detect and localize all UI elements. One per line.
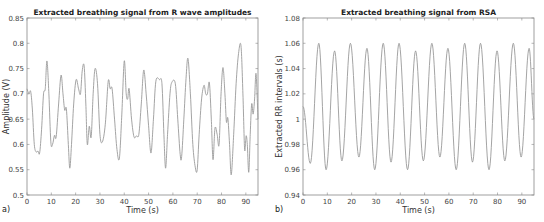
x-tick-label: 70 bbox=[469, 198, 478, 206]
y-tick-label: 0.6 bbox=[13, 141, 25, 149]
chart-panel-1: 01020304050607080900.940.960.9811.021.04… bbox=[275, 8, 534, 215]
y-tick-label: 0.94 bbox=[284, 192, 300, 200]
x-tick-label: 40 bbox=[396, 198, 405, 206]
panel-label: b) bbox=[275, 205, 283, 214]
chart-title: Extracted breathing signal from R wave a… bbox=[33, 8, 252, 17]
plot-area-frame bbox=[303, 18, 534, 195]
x-tick-label: 30 bbox=[95, 198, 104, 206]
x-axis-label: Time (s) bbox=[401, 206, 435, 215]
x-tick-label: 10 bbox=[47, 198, 56, 206]
x-tick-label: 0 bbox=[25, 198, 29, 206]
y-tick-label: 1.04 bbox=[284, 65, 300, 73]
plot-area-frame bbox=[27, 18, 258, 195]
x-tick-label: 90 bbox=[517, 198, 526, 206]
x-tick-label: 30 bbox=[371, 198, 380, 206]
y-tick-label: 0.5 bbox=[13, 192, 24, 200]
y-tick-label: 1.06 bbox=[284, 40, 300, 48]
y-tick-label: 1.02 bbox=[284, 90, 300, 98]
y-tick-label: 0.75 bbox=[8, 65, 24, 73]
y-tick-label: 1 bbox=[296, 116, 300, 124]
y-tick-label: 1.08 bbox=[284, 15, 300, 23]
y-tick-label: 0.8 bbox=[13, 40, 24, 48]
y-tick-label: 0.55 bbox=[8, 166, 24, 174]
figure: 01020304050607080900.50.550.60.650.70.75… bbox=[0, 0, 544, 222]
x-tick-label: 20 bbox=[347, 198, 356, 206]
x-tick-label: 60 bbox=[168, 198, 177, 206]
data-line-series-0 bbox=[27, 43, 258, 175]
y-tick-label: 0.96 bbox=[284, 166, 300, 174]
x-tick-label: 10 bbox=[323, 198, 332, 206]
x-tick-label: 90 bbox=[241, 198, 250, 206]
x-tick-label: 80 bbox=[217, 198, 226, 206]
x-tick-label: 50 bbox=[144, 198, 153, 206]
x-tick-label: 0 bbox=[301, 198, 305, 206]
x-tick-label: 80 bbox=[493, 198, 502, 206]
x-axis-label: Time (s) bbox=[125, 206, 159, 215]
panel-label: a) bbox=[2, 205, 10, 214]
data-line-series-0 bbox=[303, 43, 534, 169]
chart-panel-0: 01020304050607080900.50.550.60.650.70.75… bbox=[2, 8, 258, 215]
y-tick-label: 0.85 bbox=[8, 15, 24, 23]
y-tick-label: 0.7 bbox=[13, 90, 24, 98]
chart-title: Extracted breathing signal from RSA bbox=[341, 8, 496, 17]
x-tick-label: 70 bbox=[193, 198, 202, 206]
y-axis-label: Extracted RR intervals (s) bbox=[275, 55, 284, 157]
y-tick-label: 0.98 bbox=[284, 141, 300, 149]
x-tick-label: 20 bbox=[71, 198, 80, 206]
x-tick-label: 40 bbox=[120, 198, 129, 206]
x-tick-label: 60 bbox=[444, 198, 453, 206]
y-axis-label: Amplitude (V) bbox=[2, 79, 11, 134]
x-tick-label: 50 bbox=[420, 198, 429, 206]
